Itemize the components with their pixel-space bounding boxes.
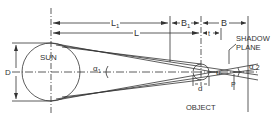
label-alpha1: α1 [93,64,101,74]
label-u: u [216,68,220,77]
label-p: P [231,81,236,88]
label-B: B [221,18,227,28]
label-plane: PLANE [236,43,261,52]
label-B1: B1 [181,18,191,29]
label-sun: SUN [40,53,57,62]
label-L1: L1 [111,18,120,29]
label-shadow: SHADOW [236,34,271,43]
label-L: L [134,28,139,38]
sun-shadow-diagram: L1 L B1 B t SHADOW PLANE D SUN α1 α2 u d… [0,0,276,120]
label-d: d [198,84,202,93]
label-object: OBJECT [186,103,216,112]
label-D: D [5,68,11,77]
label-t: t [208,30,210,37]
